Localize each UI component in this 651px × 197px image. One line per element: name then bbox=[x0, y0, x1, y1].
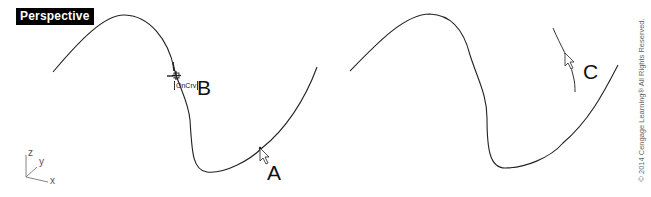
pick-point-a bbox=[259, 147, 261, 149]
cursor-arrow-icon-c bbox=[565, 53, 574, 69]
callout-label-b: B bbox=[197, 77, 211, 98]
copyright-notice: © 2014 Cengage Learning® All Rights Rese… bbox=[637, 18, 646, 181]
callout-label-c: C bbox=[583, 61, 598, 82]
osnap-marker-icon-b bbox=[167, 62, 181, 80]
axis-label-y: y bbox=[39, 157, 44, 167]
curve-left[interactable] bbox=[53, 15, 317, 172]
curve-right[interactable] bbox=[350, 14, 618, 168]
axis-label-x: x bbox=[50, 176, 55, 186]
callout-label-a: A bbox=[267, 162, 281, 183]
viewport-canvas[interactable] bbox=[0, 0, 651, 197]
world-axes-icon bbox=[26, 155, 48, 182]
axis-label-z: z bbox=[28, 148, 33, 158]
osnap-tooltip: OnCrv bbox=[174, 81, 198, 90]
